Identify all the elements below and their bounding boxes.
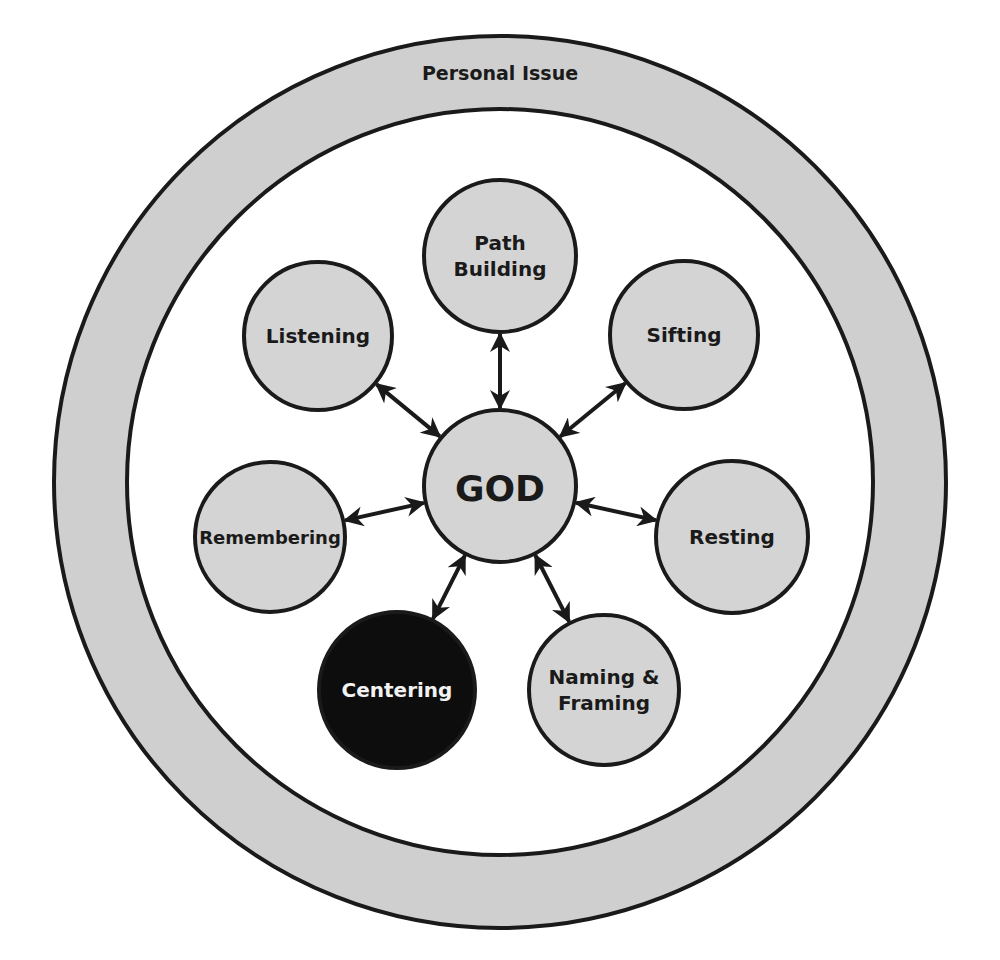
node-resting-label: Resting <box>689 525 775 549</box>
node-centering: Centering <box>319 612 475 768</box>
personal-issue-diagram: Personal Issue GOD PathBuildingSiftingRe… <box>0 0 1000 960</box>
node-resting: Resting <box>656 461 808 613</box>
node-sifting-label: Sifting <box>647 323 722 347</box>
node-listening: Listening <box>244 262 392 410</box>
node-path-building: PathBuilding <box>424 180 576 332</box>
node-naming-framing-circle <box>529 615 679 765</box>
node-naming-framing: Naming &Framing <box>529 615 679 765</box>
node-remembering-label: Remembering <box>199 527 341 548</box>
node-path-building-label: Building <box>454 257 547 281</box>
god-node-label: GOD <box>455 468 545 509</box>
node-centering-label: Centering <box>342 678 453 702</box>
node-naming-framing-label: Framing <box>558 691 650 715</box>
node-remembering: Remembering <box>195 462 345 612</box>
node-naming-framing-label: Naming & <box>549 665 660 689</box>
node-sifting: Sifting <box>610 261 758 409</box>
personal-issue-label: Personal Issue <box>422 62 578 84</box>
node-path-building-label: Path <box>474 231 525 255</box>
node-path-building-circle <box>424 180 576 332</box>
node-listening-label: Listening <box>266 324 370 348</box>
god-node: GOD <box>424 410 576 562</box>
